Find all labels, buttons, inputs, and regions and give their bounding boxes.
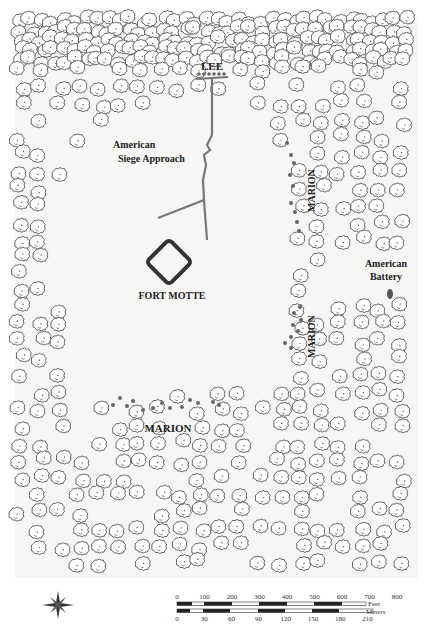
scale-feet-tick: 800 (392, 593, 403, 601)
scale-feet-tick: 500 (309, 593, 320, 601)
label-fort-motte: FORT MOTTE (139, 290, 206, 301)
label-marion-north: MARION (306, 168, 317, 212)
scale-feet-tick: 0 (175, 593, 179, 601)
scale-meters-tick: 210 (362, 615, 373, 623)
scale-feet-tick: 100 (199, 593, 210, 601)
scale-feet-tick: 600 (337, 593, 348, 601)
scale-meters-tick: 0 (175, 615, 179, 623)
fort-motte-map: LEE American Siege Approach FORT MOTTE M… (0, 0, 430, 641)
label-siege-approach-2: Siege Approach (118, 153, 185, 164)
scale-meters-unit: Meters (366, 608, 386, 616)
label-lee: LEE (201, 60, 223, 72)
scale-feet-unit: Feet (368, 600, 380, 608)
scale-bar: 0100200300400500600700800 03060901201501… (175, 593, 403, 623)
compass-rose-icon (42, 591, 74, 619)
scale-feet-tick: 400 (282, 593, 293, 601)
label-battery-2: Battery (370, 271, 402, 282)
scale-meters-tick: 180 (335, 615, 346, 623)
scale-feet-tick: 300 (254, 593, 265, 601)
american-battery-marker (387, 289, 393, 299)
label-siege-approach-1: American (113, 139, 156, 150)
scale-meters-tick: 30 (201, 615, 209, 623)
scale-meters-tick: 120 (281, 615, 292, 623)
scale-meters-tick: 90 (255, 615, 263, 623)
label-marion-east: MARION (306, 314, 317, 358)
scale-meters-tick: 60 (228, 615, 236, 623)
label-battery-1: American (365, 258, 408, 269)
scale-feet-tick: 200 (227, 593, 238, 601)
label-marion-south: MARION (144, 422, 191, 434)
scale-meters-tick: 150 (308, 615, 319, 623)
